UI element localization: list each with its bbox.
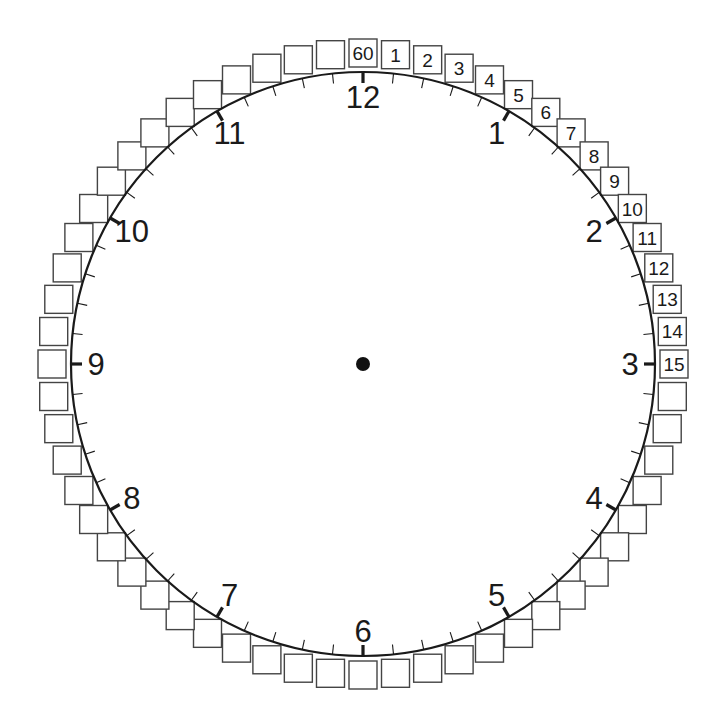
- minute-box-31[interactable]: [316, 659, 344, 687]
- hour-label-1: 1: [488, 116, 505, 151]
- minute-tick: [621, 245, 630, 249]
- hour-label-3: 3: [621, 347, 638, 382]
- minute-box-27[interactable]: [445, 646, 473, 674]
- minute-box-13[interactable]: 13: [653, 285, 681, 313]
- minute-box-8[interactable]: 8: [580, 142, 608, 170]
- minute-tick: [85, 451, 95, 454]
- minute-tick: [450, 86, 453, 96]
- minute-box-label: 6: [541, 102, 552, 123]
- minute-tick: [591, 192, 599, 198]
- minute-tick: [273, 632, 276, 642]
- minute-box-17[interactable]: [653, 415, 681, 443]
- minute-box-38[interactable]: [118, 558, 146, 586]
- minute-box-33[interactable]: [253, 646, 281, 674]
- minute-box-label: 60: [352, 43, 373, 64]
- minute-tick: [639, 423, 649, 425]
- minute-box-40[interactable]: [80, 506, 108, 534]
- minute-box-29[interactable]: [382, 659, 410, 687]
- minute-box-12[interactable]: 12: [645, 254, 673, 282]
- minute-box-47[interactable]: [45, 285, 73, 313]
- minute-box-32[interactable]: [284, 654, 312, 682]
- minute-box-4[interactable]: 4: [475, 66, 503, 94]
- hour-label-4: 4: [586, 481, 603, 516]
- minute-box-54[interactable]: [166, 98, 194, 126]
- minute-tick: [552, 574, 559, 581]
- minute-box-21[interactable]: [601, 533, 629, 561]
- minute-box-45[interactable]: [38, 350, 66, 378]
- minute-box-59[interactable]: [316, 41, 344, 69]
- minute-box-24[interactable]: [532, 602, 560, 630]
- minute-box-60[interactable]: 60: [349, 39, 377, 67]
- minute-box-25[interactable]: [505, 619, 533, 647]
- minute-tick: [478, 97, 482, 106]
- minute-tick: [643, 393, 653, 394]
- minute-box-50[interactable]: [80, 195, 108, 223]
- minute-box-43[interactable]: [45, 415, 73, 443]
- minute-tick: [621, 479, 630, 483]
- minute-box-16[interactable]: [658, 383, 686, 411]
- minute-box-48[interactable]: [53, 254, 81, 282]
- minute-box-2[interactable]: 2: [414, 46, 442, 74]
- minute-tick: [191, 128, 197, 136]
- minute-tick: [552, 147, 559, 154]
- minute-tick: [639, 303, 649, 305]
- minute-box-49[interactable]: [65, 224, 93, 252]
- minute-box-20[interactable]: [618, 506, 646, 534]
- minute-box-9[interactable]: 9: [601, 167, 629, 195]
- minute-box-10[interactable]: 10: [618, 195, 646, 223]
- minute-box-46[interactable]: [40, 317, 68, 345]
- hour-label-2: 2: [586, 214, 603, 249]
- minute-box-26[interactable]: [475, 634, 503, 662]
- hour-label-11: 11: [213, 116, 245, 151]
- center-dot: [356, 357, 370, 371]
- minute-box-58[interactable]: [284, 46, 312, 74]
- minute-box-6[interactable]: 6: [532, 98, 560, 126]
- minute-box-5[interactable]: 5: [505, 81, 533, 109]
- hour-label-5: 5: [488, 578, 505, 613]
- minute-tick: [168, 574, 175, 581]
- hour-label-7: 7: [221, 578, 238, 613]
- minute-tick: [96, 479, 105, 483]
- minute-box-1[interactable]: 1: [382, 41, 410, 69]
- minute-tick: [244, 97, 248, 106]
- minute-tick: [127, 530, 135, 536]
- minute-box-56[interactable]: [223, 66, 251, 94]
- minute-box-41[interactable]: [65, 476, 93, 504]
- minute-box-15[interactable]: 15: [660, 350, 688, 378]
- minute-box-39[interactable]: [97, 533, 125, 561]
- minute-box-55[interactable]: [194, 81, 222, 109]
- minute-box-36[interactable]: [166, 602, 194, 630]
- minute-tick: [273, 86, 276, 96]
- minute-box-53[interactable]: [141, 119, 169, 147]
- minute-box-28[interactable]: [414, 654, 442, 682]
- clock-face-diagram: 60123456789101112131415 121234567891011: [0, 0, 723, 727]
- minute-box-44[interactable]: [40, 383, 68, 411]
- hour-label-9: 9: [87, 347, 104, 382]
- minute-box-label: 8: [589, 146, 600, 167]
- minute-box-3[interactable]: 3: [445, 54, 473, 82]
- minute-box-label: 14: [662, 321, 684, 342]
- minute-box-57[interactable]: [253, 54, 281, 82]
- minute-box-14[interactable]: 14: [658, 317, 686, 345]
- minute-box-18[interactable]: [645, 446, 673, 474]
- hour-tick: [606, 218, 616, 224]
- minute-box-label: 12: [648, 258, 669, 279]
- minute-box-19[interactable]: [633, 476, 661, 504]
- minute-box-51[interactable]: [97, 167, 125, 195]
- minute-box-30[interactable]: [349, 661, 377, 689]
- minute-box-label: 7: [566, 123, 577, 144]
- minute-box-label: 11: [637, 228, 657, 249]
- minute-box-23[interactable]: [557, 581, 585, 609]
- minute-tick: [422, 78, 424, 88]
- minute-box-label: 15: [663, 354, 684, 375]
- minute-box-42[interactable]: [53, 446, 81, 474]
- minute-box-35[interactable]: [194, 619, 222, 647]
- hour-label-12: 12: [346, 80, 380, 115]
- minute-box-label: 2: [422, 50, 433, 71]
- minute-tick: [529, 592, 535, 600]
- minute-box-11[interactable]: 11: [633, 224, 661, 252]
- hour-tick: [110, 505, 120, 511]
- minute-box-34[interactable]: [223, 634, 251, 662]
- minute-tick: [529, 128, 535, 136]
- minute-tick: [302, 640, 304, 650]
